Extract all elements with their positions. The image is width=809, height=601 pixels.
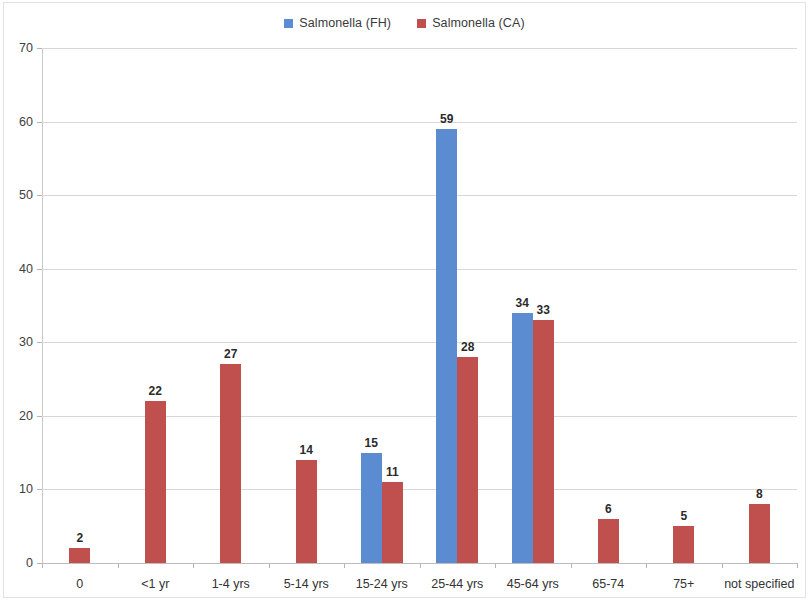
legend-swatch-icon [284,19,293,28]
bar-value-label: 6 [605,502,612,516]
bar-value-label: 2 [76,531,83,545]
legend-entry[interactable]: Salmonella (CA) [417,16,525,30]
y-axis-tick-label: 40 [19,262,33,276]
x-axis-category-label: not specified [724,577,794,591]
x-axis-category-label: 5-14 yrs [284,577,329,591]
x-axis-category-label: <1 yr [141,577,169,591]
bar-group: 592825-44 yrs [420,48,496,563]
legend-label: Salmonella (CA) [432,16,525,30]
bar-value-label: 59 [440,112,453,126]
x-tick-mark [118,563,119,568]
bar-value-label: 22 [149,384,162,398]
x-axis-category-label: 75+ [673,577,694,591]
x-tick-mark [571,563,572,568]
bar-value-label: 15 [365,436,378,450]
bar-group: 665-74 [571,48,647,563]
bar-group: 575+ [646,48,722,563]
bar-group: 343345-64 yrs [495,48,571,563]
bar-group: 20 [42,48,118,563]
bar-group: 271-4 yrs [193,48,269,563]
x-tick-mark [269,563,270,568]
bar[interactable]: 5 [673,526,694,563]
legend-label: Salmonella (FH) [299,16,391,30]
x-tick-mark [42,563,43,568]
x-tick-mark [344,563,345,568]
bar-value-label: 5 [680,509,687,523]
bar-group: 145-14 yrs [269,48,345,563]
legend-swatch-icon [417,19,426,28]
bar[interactable]: 11 [382,482,403,563]
chart-legend: Salmonella (FH)Salmonella (CA) [0,12,809,34]
bar[interactable]: 14 [296,460,317,563]
bar[interactable]: 28 [457,357,478,563]
x-tick-mark [646,563,647,568]
bar[interactable]: 6 [598,519,619,563]
bar-group: 22<1 yr [118,48,194,563]
x-tick-mark [797,563,798,568]
bar[interactable]: 33 [533,320,554,563]
x-tick-mark [193,563,194,568]
y-axis-tick-label: 30 [19,335,33,349]
x-axis-category-label: 15-24 yrs [356,577,408,591]
x-tick-mark [722,563,723,568]
x-axis-category-label: 25-44 yrs [431,577,483,591]
x-axis-category-label: 0 [76,577,83,591]
legend-entry[interactable]: Salmonella (FH) [284,16,391,30]
bar-value-label: 14 [300,443,313,457]
bar-group: 151115-24 yrs [344,48,420,563]
salmonella-age-distribution-chart: Salmonella (FH)Salmonella (CA) 010203040… [0,0,809,601]
x-axis-category-label: 65-74 [592,577,624,591]
x-tick-mark [420,563,421,568]
bar-value-label: 34 [516,296,529,310]
x-axis-category-label: 1-4 yrs [212,577,250,591]
bar[interactable]: 59 [436,129,457,563]
y-axis-tick-label: 0 [26,556,33,570]
bar-group: 8not specified [722,48,798,563]
y-axis-tick-label: 60 [19,115,33,129]
y-axis-tick-label: 20 [19,409,33,423]
bar[interactable]: 2 [69,548,90,563]
bar[interactable]: 15 [361,453,382,563]
bar[interactable]: 8 [749,504,770,563]
bar-value-label: 11 [386,465,399,479]
bar-value-label: 8 [756,487,763,501]
y-axis-tick-label: 50 [19,188,33,202]
bar-value-label: 28 [461,340,474,354]
bar[interactable]: 22 [145,401,166,563]
bar[interactable]: 27 [220,364,241,563]
bar-value-label: 27 [224,347,237,361]
plot-area: 010203040506070 2022<1 yr271-4 yrs145-14… [42,48,797,563]
bar[interactable]: 34 [512,313,533,563]
bar-value-label: 33 [537,303,550,317]
y-axis-tick-label: 10 [19,482,33,496]
x-axis-category-label: 45-64 yrs [507,577,559,591]
x-tick-mark [495,563,496,568]
y-axis-tick-label: 70 [19,41,33,55]
